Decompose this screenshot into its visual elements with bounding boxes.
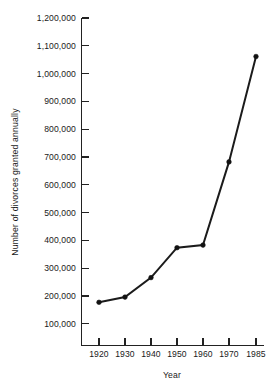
x-tick-label: 1950 [167,349,187,359]
x-axis-ticks [99,338,256,346]
y-tick-label: 500,000 [44,208,76,218]
divorces-line-chart: 1,200,000 1,100,000 1,000,000 900,000 80… [0,0,279,392]
y-tick-label: 700,000 [44,152,76,162]
data-point-1950 [175,245,180,250]
y-tick-label: 1,000,000 [37,69,76,79]
y-tick-label: 100,000 [44,319,76,329]
x-tick-label: 1970 [219,349,239,359]
y-axis-title: Number of divorces granted annually [10,108,20,256]
y-tick-label: 300,000 [44,263,76,273]
data-point-1920 [97,300,102,305]
y-tick-label: 600,000 [44,180,76,190]
data-point-1960 [201,243,206,248]
x-tick-label: 1920 [89,349,109,359]
data-point-1930 [123,295,128,300]
y-tick-label: 900,000 [44,96,76,106]
x-tick-label: 1960 [193,349,213,359]
data-point-1940 [149,275,154,280]
y-tick-label: 1,200,000 [37,13,76,23]
y-tick-label: 800,000 [44,124,76,134]
x-tick-label: 1940 [141,349,161,359]
data-point-1985 [254,54,259,59]
y-tick-label: 1,100,000 [37,41,76,51]
y-tick-label: 200,000 [44,291,76,301]
data-point-markers [97,54,259,304]
x-axis-tick-labels: 1920 1930 1940 1950 1960 1970 1985 [89,349,266,359]
data-line-divorces [99,57,256,303]
x-tick-label: 1985 [246,349,266,359]
chart-canvas: 1,200,000 1,100,000 1,000,000 900,000 80… [0,0,279,392]
y-tick-label: 400,000 [44,235,76,245]
x-axis-title: Year [163,370,181,380]
y-axis-ticks [82,18,90,324]
x-tick-label: 1930 [115,349,135,359]
data-point-1970 [227,160,232,165]
y-axis-tick-labels: 1,200,000 1,100,000 1,000,000 900,000 80… [37,13,76,329]
